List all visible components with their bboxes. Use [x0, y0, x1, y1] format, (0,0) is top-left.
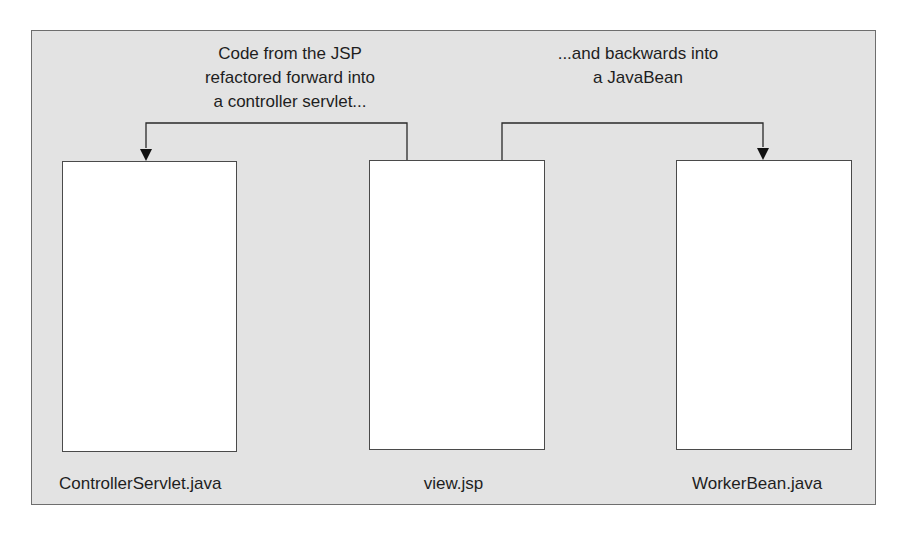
backward-refactor-caption: ...and backwards into a JavaBean — [518, 42, 758, 90]
worker-bean-box — [676, 160, 852, 450]
view-jsp-box — [369, 160, 545, 450]
worker-bean-label: WorkerBean.java — [692, 473, 822, 495]
controller-servlet-box — [62, 161, 237, 452]
forward-refactor-caption: Code from the JSP refactored forward int… — [160, 42, 420, 114]
